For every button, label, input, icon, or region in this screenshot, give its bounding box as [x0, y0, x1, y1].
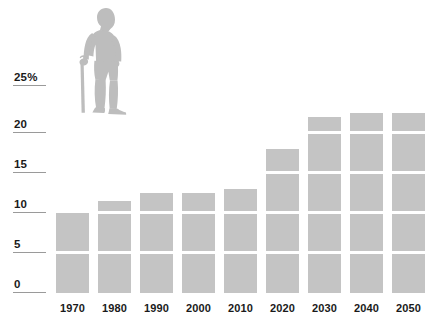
- bar-gridline: [350, 131, 383, 134]
- bar-gridline: [98, 251, 131, 254]
- y-axis: 0 5 10 15 20 25%: [0, 0, 52, 332]
- x-tick-label: 1970: [60, 302, 85, 314]
- y-tick-label-25: 25%: [14, 71, 38, 83]
- bar-gridline: [266, 211, 299, 214]
- x-tick-label: 1980: [102, 302, 127, 314]
- bar-gridline: [224, 251, 257, 254]
- bar-gridline: [56, 251, 89, 254]
- x-tick-label: 2050: [396, 302, 421, 314]
- y-tick-label-5: 5: [14, 238, 21, 250]
- bar-gridline: [392, 171, 425, 174]
- y-tick-rule-10: [13, 212, 46, 213]
- bar[interactable]: [392, 113, 425, 293]
- bar-gridline: [308, 131, 341, 134]
- bar-gridline: [266, 251, 299, 254]
- plot-area: 197019801990200020102020203020402050: [52, 0, 440, 332]
- bar[interactable]: [140, 193, 173, 293]
- bar-gridline: [266, 171, 299, 174]
- x-tick-label: 2000: [186, 302, 211, 314]
- bar[interactable]: [224, 189, 257, 293]
- y-tick-rule-15: [13, 172, 46, 173]
- bar[interactable]: [56, 213, 89, 293]
- bar-gridline: [308, 211, 341, 214]
- bar-gridline: [392, 211, 425, 214]
- y-tick-rule-5: [13, 252, 46, 253]
- bar-gridline: [350, 171, 383, 174]
- y-tick-label-0: 0: [14, 278, 21, 290]
- bar-gridline: [308, 171, 341, 174]
- bar[interactable]: [182, 193, 215, 293]
- bar-gridline: [350, 211, 383, 214]
- bar[interactable]: [350, 113, 383, 293]
- y-tick-label-15: 15: [14, 158, 27, 170]
- x-tick-label: 2030: [312, 302, 337, 314]
- bar-gridline: [350, 251, 383, 254]
- bar-gridline: [392, 131, 425, 134]
- bar-gridline: [182, 251, 215, 254]
- bar-gridline: [140, 211, 173, 214]
- bar-gridline: [182, 211, 215, 214]
- y-tick-rule-20: [13, 132, 46, 133]
- chart-container: 0 5 10 15 20 25% 19701980199020002010202…: [0, 0, 440, 332]
- bar[interactable]: [266, 149, 299, 293]
- y-tick-label-20: 20: [14, 118, 27, 130]
- x-tick-label: 1990: [144, 302, 169, 314]
- bar[interactable]: [308, 117, 341, 293]
- bar-gridline: [140, 251, 173, 254]
- y-tick-rule-25: [13, 85, 46, 86]
- bar-gridline: [392, 251, 425, 254]
- x-tick-label: 2040: [354, 302, 379, 314]
- x-tick-label: 2010: [228, 302, 253, 314]
- bar[interactable]: [98, 201, 131, 293]
- bar-gridline: [98, 211, 131, 214]
- x-tick-label: 2020: [270, 302, 295, 314]
- bar-gridline: [224, 211, 257, 214]
- bar-gridline: [308, 251, 341, 254]
- y-tick-rule-0: [13, 292, 46, 293]
- y-tick-label-10: 10: [14, 198, 27, 210]
